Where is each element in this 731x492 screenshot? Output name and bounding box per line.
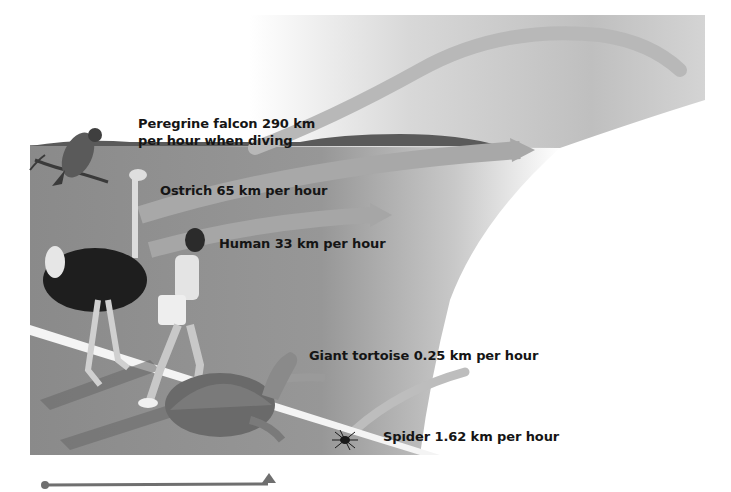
falcon-label: Peregrine falcon 290 km per hour when di… bbox=[138, 115, 315, 149]
tortoise-label: Giant tortoise 0.25 km per hour bbox=[309, 347, 538, 364]
human-label: Human 33 km per hour bbox=[219, 235, 385, 252]
spider-label: Spider 1.62 km per hour bbox=[383, 428, 559, 445]
scale-bar bbox=[41, 473, 276, 489]
ostrich-label: Ostrich 65 km per hour bbox=[160, 182, 327, 199]
falcon-label-line2: per hour when diving bbox=[138, 132, 315, 149]
falcon-label-line1: Peregrine falcon 290 km bbox=[138, 115, 315, 132]
